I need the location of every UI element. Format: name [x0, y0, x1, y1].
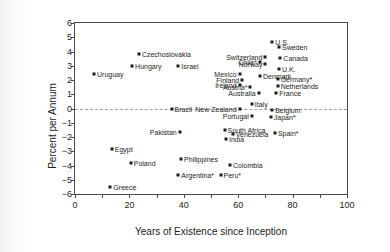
- data-point-marker: [178, 131, 181, 134]
- data-point-label: India: [229, 136, 244, 143]
- data-point-marker: [275, 91, 278, 94]
- data-point-marker: [249, 86, 252, 89]
- data-point-marker: [273, 131, 276, 134]
- data-point-marker: [229, 163, 232, 166]
- data-point-marker: [250, 102, 253, 105]
- y-axis-tick-label: −6: [62, 189, 72, 199]
- data-point-label: Sweden: [282, 44, 307, 51]
- x-axis-tick: [129, 194, 130, 198]
- data-point-marker: [279, 56, 282, 59]
- y-axis-tick-label: 2: [67, 75, 72, 85]
- data-point-marker: [137, 53, 140, 56]
- data-point-marker: [276, 85, 279, 88]
- data-point-label: Spain*: [278, 129, 299, 136]
- data-point-label: Uruguay: [97, 70, 123, 77]
- data-point-marker: [278, 68, 281, 71]
- data-point-label: Poland: [134, 159, 156, 166]
- data-point-marker: [129, 161, 132, 164]
- data-point-marker: [180, 158, 183, 161]
- x-axis-tick-label: 60: [233, 200, 243, 210]
- y-axis-tick-label: 1: [67, 89, 72, 99]
- y-axis-tick-label: −5: [62, 175, 72, 185]
- data-point-marker: [238, 73, 241, 76]
- data-point-label: Colombia: [233, 161, 263, 168]
- scatter-chart-figure: Percent per Annum 6543210−1−2−3−4−5−6 02…: [0, 0, 390, 252]
- data-point-marker: [170, 108, 173, 111]
- x-axis-tick: [320, 194, 321, 198]
- x-axis-tick-label: 100: [339, 200, 354, 210]
- data-point-marker: [131, 65, 134, 68]
- data-point-marker: [257, 91, 260, 94]
- y-axis-tick-label: 4: [67, 47, 72, 57]
- data-point-marker: [224, 138, 227, 141]
- data-point-marker: [219, 173, 222, 176]
- data-point-label: Hungary: [135, 63, 161, 70]
- data-point-marker: [109, 185, 112, 188]
- data-point-marker: [177, 65, 180, 68]
- y-axis-tick-label: −2: [62, 132, 72, 142]
- x-axis-tick: [347, 194, 348, 198]
- x-axis-title: Years of Existence since Inception: [74, 226, 348, 237]
- data-point-label: France: [279, 89, 301, 96]
- data-point-marker: [238, 108, 241, 111]
- data-point-marker: [264, 56, 267, 59]
- data-point-marker: [271, 108, 274, 111]
- plot-area: 6543210−1−2−3−4−5−6 020406080100 U.S.Swe…: [74, 22, 348, 195]
- x-axis-tick: [293, 194, 294, 198]
- x-axis-tick-label: 80: [288, 200, 298, 210]
- x-axis-tick: [265, 194, 266, 198]
- data-point-label: Canada: [283, 54, 308, 61]
- x-axis-tick-label: 0: [72, 200, 77, 210]
- x-axis-tick: [238, 194, 239, 198]
- y-axis-tick-label: 5: [67, 32, 72, 42]
- data-point-label: Egypt: [115, 146, 133, 153]
- data-point-marker: [271, 40, 274, 43]
- data-point-marker: [276, 78, 279, 81]
- data-point-label: New Zealand: [195, 106, 236, 113]
- x-axis-tick: [75, 194, 76, 198]
- data-point-label: Pakistan: [150, 129, 177, 136]
- data-point-marker: [241, 79, 244, 82]
- data-point-label: Czechoslovakia: [142, 51, 191, 58]
- y-axis-tick-label: −4: [62, 161, 72, 171]
- data-point-marker: [269, 116, 272, 119]
- data-point-label: Japan*: [274, 114, 296, 121]
- y-axis-tick-label: −1: [62, 118, 72, 128]
- data-point-label: Argentina*: [181, 171, 214, 178]
- data-point-label: Brazil: [175, 106, 193, 113]
- data-point-marker: [110, 148, 113, 151]
- x-axis-tick-label: 20: [124, 200, 134, 210]
- data-point-label: Germany*: [281, 76, 313, 83]
- data-point-label: Philippines: [184, 156, 218, 163]
- y-axis-tick-label: 6: [67, 18, 72, 28]
- x-axis-tick: [211, 194, 212, 198]
- data-point-label: Greece: [113, 183, 136, 190]
- data-point-label: Norway: [239, 61, 263, 68]
- x-axis-tick: [184, 194, 185, 198]
- data-point-label: Australia: [228, 89, 255, 96]
- data-point-marker: [258, 74, 261, 77]
- data-point-label: Peru*: [224, 171, 242, 178]
- data-point-label: Belgium: [275, 106, 300, 113]
- y-axis-tick-label: 3: [67, 61, 72, 71]
- data-point-label: Israel: [181, 63, 198, 70]
- x-axis-tick-label: 40: [179, 200, 189, 210]
- data-point-marker: [250, 115, 253, 118]
- x-axis-tick: [157, 194, 158, 198]
- data-point-marker: [223, 128, 226, 131]
- data-point-marker: [278, 46, 281, 49]
- y-axis-title: Percent per Annum: [47, 83, 58, 169]
- y-axis-tick-label: 0: [67, 104, 72, 114]
- data-point-marker: [93, 72, 96, 75]
- data-point-label: Portugal: [223, 113, 249, 120]
- x-axis-tick: [102, 194, 103, 198]
- y-axis-tick-label: −3: [62, 146, 72, 156]
- data-point-marker: [177, 173, 180, 176]
- data-point-label: Italy: [255, 100, 268, 107]
- data-point-marker: [264, 63, 267, 66]
